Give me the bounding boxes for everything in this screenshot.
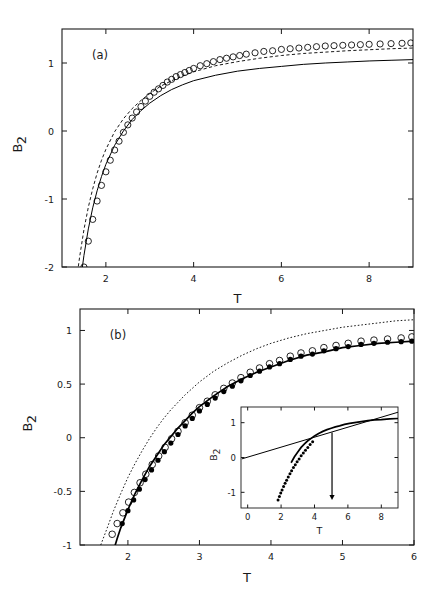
data-point xyxy=(125,508,130,513)
x-tick-label: 0 xyxy=(245,512,250,522)
data-point xyxy=(321,348,326,353)
x-axis-title: T xyxy=(316,525,323,536)
panel-letter-label: (a) xyxy=(92,48,108,62)
x-tick-label: 2 xyxy=(103,273,109,284)
data-point xyxy=(357,42,363,48)
data-point xyxy=(137,487,142,492)
figure-container: 246810-1-2TB2(a)2345610.50-0.5-1TB2(b)02… xyxy=(0,0,436,614)
data-point xyxy=(238,378,243,383)
data-point xyxy=(366,41,372,47)
data-point xyxy=(230,384,235,389)
data-point xyxy=(305,44,311,50)
y-tick-label: 0 xyxy=(231,453,236,463)
x-tick-label: 3 xyxy=(196,551,202,562)
x-tick-label: 5 xyxy=(339,551,345,562)
inset-plot-frame xyxy=(241,407,398,508)
y-tick-label: -2 xyxy=(45,262,54,273)
y-tick-label: -1 xyxy=(63,540,72,551)
y-tick-label: 1 xyxy=(231,418,236,428)
data-point xyxy=(183,423,188,428)
data-point xyxy=(296,460,299,463)
data-point xyxy=(230,54,236,60)
data-point xyxy=(385,340,390,345)
series-open-circle-markers xyxy=(81,40,414,270)
y-tick-label: -0.5 xyxy=(53,486,72,497)
data-point xyxy=(267,364,272,369)
panel-letter-label: (b) xyxy=(110,328,126,342)
data-point xyxy=(298,457,301,460)
x-tick-label: 6 xyxy=(411,551,417,562)
data-point xyxy=(133,109,139,115)
data-point xyxy=(175,432,180,437)
x-tick-label: 4 xyxy=(312,512,317,522)
data-point xyxy=(155,86,161,92)
data-point xyxy=(304,449,307,452)
data-point xyxy=(257,369,262,374)
data-point xyxy=(348,42,354,48)
data-point xyxy=(168,440,173,445)
data-point xyxy=(388,41,394,47)
y-tick-label: 0.5 xyxy=(57,379,72,390)
y-tick-label: -1 xyxy=(45,194,54,205)
data-point xyxy=(223,55,229,61)
data-point xyxy=(302,451,305,454)
data-point xyxy=(358,342,363,347)
data-point xyxy=(114,520,121,527)
data-point xyxy=(120,510,127,517)
panel-panel-b-inset: 0246810-1TB2 xyxy=(208,407,398,536)
data-point xyxy=(340,42,346,48)
data-point xyxy=(98,182,104,188)
data-point xyxy=(292,466,295,469)
data-point xyxy=(197,63,203,69)
data-point xyxy=(277,498,280,501)
data-point xyxy=(243,51,249,57)
y-tick-label: -1 xyxy=(228,488,236,498)
series-solid-curve xyxy=(80,60,413,291)
data-point xyxy=(287,46,293,52)
curve-path xyxy=(80,60,413,291)
data-point xyxy=(278,46,284,52)
x-tick-label: 8 xyxy=(366,273,372,284)
y-tick-label: 0 xyxy=(48,126,54,137)
data-point xyxy=(284,482,287,485)
data-point xyxy=(287,476,290,479)
data-point xyxy=(310,351,315,356)
data-point xyxy=(217,57,223,63)
data-point xyxy=(210,59,216,65)
y-tick-label: 1 xyxy=(66,325,72,336)
data-point xyxy=(162,449,167,454)
x-tick-label: 6 xyxy=(278,273,284,284)
data-point xyxy=(109,531,116,538)
plot-frame xyxy=(62,29,413,267)
data-point xyxy=(277,361,282,366)
x-tick-label: 4 xyxy=(268,551,274,562)
y-axis-title-subscript: 2 xyxy=(211,448,222,454)
data-point xyxy=(131,497,136,502)
data-point xyxy=(377,41,383,47)
y-axis-title: B2 xyxy=(208,448,222,460)
data-point xyxy=(252,50,258,56)
data-point xyxy=(213,395,218,400)
data-point xyxy=(296,45,302,51)
x-tick-label: 2 xyxy=(278,512,283,522)
data-point xyxy=(288,472,291,475)
data-point xyxy=(306,446,309,449)
x-tick-label: 2 xyxy=(125,551,131,562)
data-point xyxy=(322,43,328,49)
x-axis-title: T xyxy=(233,291,242,306)
data-point xyxy=(205,402,210,407)
data-point xyxy=(346,344,351,349)
curve-path xyxy=(75,48,413,294)
data-point xyxy=(197,408,202,413)
figure-svg: 246810-1-2TB2(a)2345610.50-0.5-1TB2(b)02… xyxy=(0,0,436,614)
data-point xyxy=(155,458,160,463)
data-point xyxy=(288,357,293,362)
series-dashed-curve xyxy=(75,48,413,294)
data-point xyxy=(294,463,297,466)
x-axis-title: T xyxy=(242,570,251,585)
data-point xyxy=(282,485,285,488)
data-point xyxy=(190,416,195,421)
data-point xyxy=(371,341,376,346)
data-point xyxy=(399,40,405,46)
data-point xyxy=(120,521,125,526)
